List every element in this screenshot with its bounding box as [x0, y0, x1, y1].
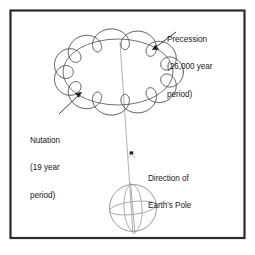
label-precession-line2: (26,000 year	[167, 62, 212, 71]
label-precession-line3: period)	[167, 90, 212, 99]
label-direction-line2: Earth's Pole	[148, 201, 191, 210]
label-nutation: Nutation (19 year period)	[30, 117, 60, 219]
label-direction-of-earths-pole: Direction of Earth's Pole	[148, 155, 191, 229]
label-precession: Precession (26,000 year period)	[167, 16, 212, 118]
label-nutation-line3: period)	[30, 191, 60, 200]
label-nutation-line1: Nutation	[30, 136, 60, 145]
pole-direction-marker	[127, 151, 135, 158]
label-direction-line1: Direction of	[148, 174, 191, 183]
figure-canvas: Precession (26,000 year period) Nutation…	[0, 0, 255, 255]
nutation-curve-generated	[54, 29, 183, 115]
pole-axis-line	[120, 42, 133, 234]
label-nutation-line2: (19 year	[30, 163, 60, 172]
label-precession-line1: Precession	[167, 35, 212, 44]
